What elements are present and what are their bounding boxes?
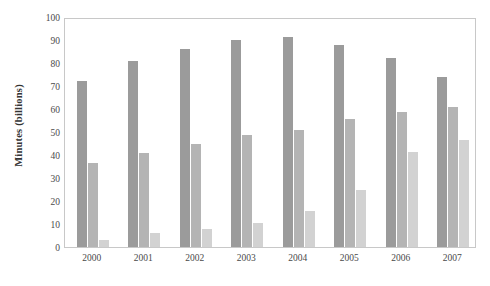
bar — [202, 229, 212, 247]
y-axis-tick-label: 0 — [30, 243, 60, 253]
bar — [448, 107, 458, 247]
bar — [180, 49, 190, 247]
plot-area — [64, 18, 476, 248]
bar — [88, 163, 98, 247]
x-axis-tick-label: 2001 — [120, 252, 166, 264]
y-axis-tick-label: 30 — [30, 174, 60, 184]
bar — [345, 119, 355, 247]
bars-layer — [65, 19, 475, 247]
bar — [334, 45, 344, 247]
bar — [408, 152, 418, 247]
bar — [128, 61, 138, 247]
x-axis-tick-label: 2006 — [378, 252, 424, 264]
bar — [150, 233, 160, 247]
y-axis-tick-label: 40 — [30, 151, 60, 161]
x-axis-tick-label: 2002 — [172, 252, 218, 264]
bar — [139, 153, 149, 247]
y-axis-tick-label: 60 — [30, 105, 60, 115]
bar — [283, 37, 293, 247]
bar — [191, 144, 201, 248]
bar — [77, 81, 87, 247]
y-axis-tick-label: 90 — [30, 36, 60, 46]
y-axis-tick-labels: 0102030405060708090100 — [30, 18, 60, 248]
y-axis-tick-label: 70 — [30, 82, 60, 92]
bar — [397, 112, 407, 247]
y-axis-tick-label: 80 — [30, 59, 60, 69]
bar-chart: Minutes (billions) 010203040506070809010… — [0, 0, 490, 286]
bar-group — [437, 19, 469, 247]
x-axis-tick-label: 2005 — [326, 252, 372, 264]
bar — [437, 77, 447, 247]
y-axis-title-label: Minutes (billions) — [13, 84, 24, 167]
x-axis-tick-label: 2003 — [223, 252, 269, 264]
bar — [356, 190, 366, 248]
bar — [253, 223, 263, 247]
bar-group — [283, 19, 315, 247]
bar-group — [231, 19, 263, 247]
x-axis-tick-labels: 20002001200220032004200520062007 — [64, 252, 476, 272]
x-axis-tick-label: 2000 — [69, 252, 115, 264]
bar — [242, 135, 252, 247]
bar — [386, 58, 396, 247]
bar-group — [386, 19, 418, 247]
x-axis-tick-label: 2004 — [275, 252, 321, 264]
y-axis-title: Minutes (billions) — [6, 0, 30, 250]
y-axis-tick-label: 10 — [30, 220, 60, 230]
bar — [459, 140, 469, 247]
bar — [294, 130, 304, 247]
bar — [305, 211, 315, 247]
bar — [231, 40, 241, 247]
y-axis-tick-label: 50 — [30, 128, 60, 138]
x-axis-tick-label: 2007 — [429, 252, 475, 264]
bar-group — [334, 19, 366, 247]
bar-group — [180, 19, 212, 247]
bar-group — [128, 19, 160, 247]
y-axis-tick-label: 100 — [30, 13, 60, 23]
y-axis-tick-label: 20 — [30, 197, 60, 207]
bar — [99, 240, 109, 247]
bar-group — [77, 19, 109, 247]
